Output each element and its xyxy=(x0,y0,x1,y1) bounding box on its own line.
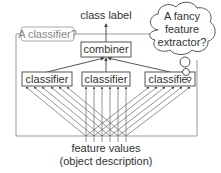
outer-frame-label: A classifier? xyxy=(18,27,77,41)
thought-bubble-line3: extractor? xyxy=(158,36,207,48)
output-label: class label xyxy=(80,9,131,21)
input-label-line2: (object description) xyxy=(60,155,153,167)
combiner-box: combiner xyxy=(81,42,131,57)
thought-bubble-line2: feature xyxy=(165,23,199,35)
feature-input-lines xyxy=(26,87,190,142)
classifier-box-1: classifier xyxy=(22,72,72,86)
ensemble-classifier-diagram: A classifier? class label combiner class… xyxy=(0,0,221,173)
classifier-label: classifier xyxy=(85,73,128,85)
classifier-box-2: classifier xyxy=(82,72,130,86)
outer-frame-label-text: A classifier? xyxy=(18,28,77,40)
input-label-line1: feature values xyxy=(71,142,141,154)
thought-bubble-line1: A fancy xyxy=(164,10,201,22)
classifier-to-combiner-arrows xyxy=(47,58,170,72)
combiner-label: combiner xyxy=(83,43,129,55)
classifier-label: classifier xyxy=(26,73,69,85)
